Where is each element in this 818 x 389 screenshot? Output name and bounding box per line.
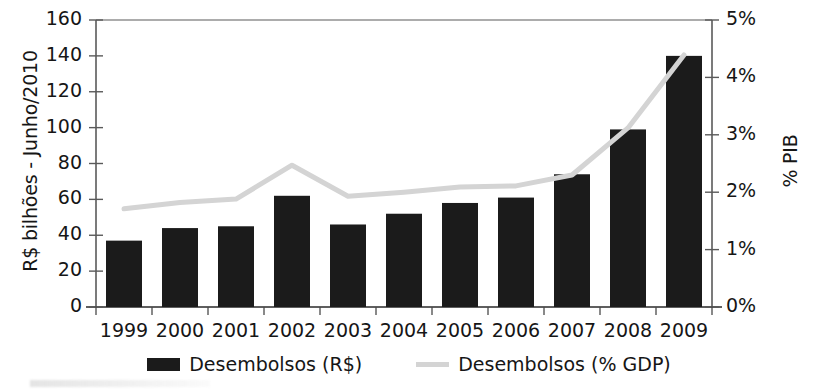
bar bbox=[666, 56, 702, 307]
x-axis-tick-label: 2000 bbox=[152, 319, 208, 341]
left-axis-tick-label: 20 bbox=[12, 258, 82, 280]
left-axis-tick-label: 160 bbox=[12, 7, 82, 29]
bar bbox=[498, 198, 534, 307]
left-axis-tick-label: 140 bbox=[12, 43, 82, 65]
x-axis-tick-label: 2002 bbox=[264, 319, 320, 341]
x-axis-tick-label: 1999 bbox=[96, 319, 152, 341]
right-axis-tick-label: 5% bbox=[726, 7, 796, 29]
scan-bleed-artifact bbox=[30, 380, 210, 387]
left-axis-tick-label: 80 bbox=[12, 151, 82, 173]
x-axis-tick-label: 2003 bbox=[320, 319, 376, 341]
chart-figure: R$ bilhões - Junho/2010 % PIB Desembolso… bbox=[0, 0, 818, 389]
right-axis-tick-label: 4% bbox=[726, 64, 796, 86]
bar bbox=[218, 226, 254, 307]
legend-line-swatch-icon bbox=[416, 362, 449, 367]
bar bbox=[554, 174, 590, 307]
bar bbox=[274, 196, 310, 307]
legend-label-line: Desembolsos (% GDP) bbox=[458, 353, 671, 375]
line-series bbox=[124, 55, 684, 209]
legend-item-bar: Desembolsos (R$) bbox=[147, 353, 362, 375]
left-axis-tick-label: 60 bbox=[12, 186, 82, 208]
bar bbox=[106, 241, 142, 307]
right-axis-tick-label: 0% bbox=[726, 294, 796, 316]
right-axis-tick-label: 2% bbox=[726, 179, 796, 201]
chart-legend: Desembolsos (R$) Desembolsos (% GDP) bbox=[0, 349, 818, 379]
left-axis-tick-label: 0 bbox=[12, 294, 82, 316]
right-axis-tick-label: 3% bbox=[726, 122, 796, 144]
x-axis-tick-label: 2004 bbox=[376, 319, 432, 341]
x-axis-tick-label: 2009 bbox=[656, 319, 712, 341]
bar bbox=[610, 129, 646, 307]
left-axis-tick-label: 120 bbox=[12, 79, 82, 101]
right-axis-title: % PIB bbox=[779, 71, 801, 251]
legend-item-line: Desembolsos (% GDP) bbox=[416, 353, 671, 375]
right-axis-tick-label: 1% bbox=[726, 237, 796, 259]
x-axis-tick-label: 2001 bbox=[208, 319, 264, 341]
left-axis-tick-label: 40 bbox=[12, 222, 82, 244]
left-axis-tick-label: 100 bbox=[12, 115, 82, 137]
legend-bar-swatch-icon bbox=[147, 358, 180, 371]
x-axis-tick-label: 2005 bbox=[432, 319, 488, 341]
bar bbox=[386, 214, 422, 307]
x-axis-tick-label: 2008 bbox=[600, 319, 656, 341]
bar bbox=[162, 228, 198, 307]
x-axis-tick-label: 2007 bbox=[544, 319, 600, 341]
bar bbox=[330, 224, 366, 307]
legend-label-bar: Desembolsos (R$) bbox=[189, 353, 362, 375]
x-axis-tick-label: 2006 bbox=[488, 319, 544, 341]
bar bbox=[442, 203, 478, 307]
